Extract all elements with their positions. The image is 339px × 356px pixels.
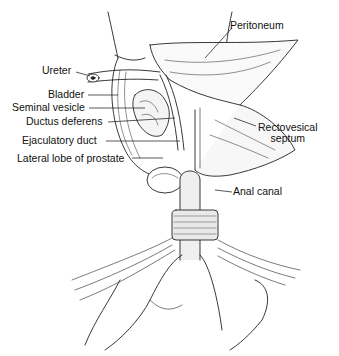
line-art-illustration: [0, 0, 339, 356]
label-anal-canal: Anal canal: [233, 186, 282, 197]
label-ejaculatory-duct: Ejaculatory duct: [22, 135, 97, 146]
anatomy-figure: Peritoneum Ureter Bladder Seminal vesicl…: [0, 0, 339, 356]
label-rectovesical-line2: septum: [271, 132, 305, 144]
label-rectovesical-septum: Rectovesical septum: [258, 122, 318, 143]
label-seminal-vesicle: Seminal vesicle: [12, 102, 85, 113]
label-lateral-lobe-prostate: Lateral lobe of prostate: [17, 153, 124, 164]
label-ductus-deferens: Ductus deferens: [26, 116, 102, 127]
label-ureter: Ureter: [42, 65, 71, 76]
label-peritoneum: Peritoneum: [230, 20, 284, 31]
label-bladder: Bladder: [48, 89, 84, 100]
